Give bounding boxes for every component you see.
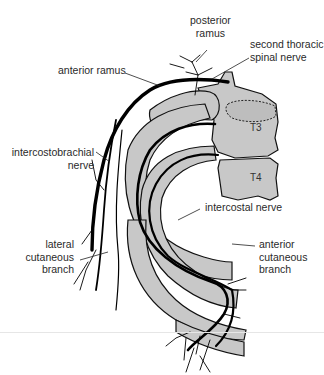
label-lateral-cutaneous-branch: lateral cutaneous branch (10, 238, 74, 276)
label-text: anterior ramus (58, 64, 126, 77)
label-text: cutaneous (259, 251, 307, 264)
label-text: intercostobrachial (10, 146, 94, 159)
anatomy-diagram: posterior ramus second thoracic spinal n… (0, 0, 324, 375)
label-anterior-ramus: anterior ramus (58, 64, 126, 77)
label-text: posterior (190, 14, 231, 27)
divider-line (0, 332, 324, 333)
label-t4: T4 (250, 172, 262, 183)
label-intercostobrachial-nerve: intercostobrachial nerve (10, 146, 94, 171)
label-text: intercostal nerve (205, 201, 282, 214)
label-text: cutaneous (10, 251, 74, 264)
label-t3: T3 (250, 122, 262, 133)
label-posterior-ramus: posterior ramus (190, 14, 231, 39)
vertebra-t4 (218, 158, 278, 200)
label-text: second thoracic (250, 38, 324, 51)
label-text: lateral (10, 238, 74, 251)
label-text: spinal nerve (250, 51, 324, 64)
label-anterior-cutaneous-branch: anterior cutaneous branch (259, 238, 307, 276)
label-text: branch (259, 263, 307, 276)
label-text: nerve (10, 159, 94, 172)
label-text: ramus (190, 27, 231, 40)
label-text: branch (10, 263, 74, 276)
label-text: anterior (259, 238, 307, 251)
label-second-thoracic-spinal-nerve: second thoracic spinal nerve (250, 38, 324, 63)
label-intercostal-nerve: intercostal nerve (205, 201, 282, 214)
